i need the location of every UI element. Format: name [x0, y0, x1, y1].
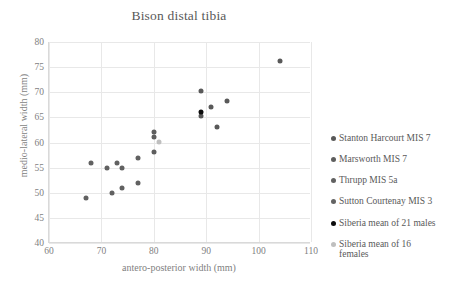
gridline-horizontal [49, 143, 310, 144]
y-tick-label: 70 [35, 87, 45, 97]
legend-marker-icon [331, 178, 336, 183]
x-tick-label: 90 [201, 246, 211, 256]
x-tick-label: 60 [44, 246, 54, 256]
data-point [109, 190, 114, 195]
legend-item[interactable]: Siberia mean of 16 females [331, 239, 449, 260]
legend-marker-icon [331, 157, 336, 162]
data-point [209, 104, 214, 109]
legend-label: Stanton Harcourt MIS 7 [339, 133, 431, 144]
data-point [120, 185, 125, 190]
gridline-vertical [154, 42, 155, 242]
gridline-vertical [259, 42, 260, 242]
gridline-horizontal [49, 243, 310, 244]
gridline-horizontal [49, 92, 310, 93]
gridline-horizontal [49, 117, 310, 118]
legend: Stanton Harcourt MIS 7Marsworth MIS 7Thr… [331, 133, 449, 270]
data-point [225, 99, 230, 104]
data-point [136, 155, 141, 160]
legend-marker-icon [331, 199, 336, 204]
data-point [83, 195, 88, 200]
gridline-horizontal [49, 218, 310, 219]
y-tick-label: 65 [35, 112, 45, 122]
legend-marker-icon [331, 221, 336, 226]
data-point [151, 150, 156, 155]
x-axis-label: antero-posterior width (mm) [48, 262, 310, 273]
legend-marker-icon [331, 242, 336, 247]
legend-item[interactable]: Thrupp MIS 5a [331, 175, 449, 186]
legend-label: Siberia mean of 16 females [339, 239, 411, 260]
legend-item[interactable]: Stanton Harcourt MIS 7 [331, 133, 449, 144]
gridline-vertical [49, 42, 50, 242]
legend-marker-icon [331, 136, 336, 141]
chart-title: Bison distal tibia [48, 8, 310, 24]
legend-item[interactable]: Marsworth MIS 7 [331, 154, 449, 165]
y-tick-label: 80 [35, 37, 45, 47]
y-tick-label: 55 [35, 163, 45, 173]
data-point [104, 165, 109, 170]
data-point [120, 165, 125, 170]
gridline-vertical [311, 42, 312, 242]
data-point [157, 139, 162, 144]
gridline-vertical [206, 42, 207, 242]
data-point [115, 160, 120, 165]
y-tick-label: 50 [35, 188, 45, 198]
gridline-vertical [101, 42, 102, 242]
data-point [136, 180, 141, 185]
data-point [88, 160, 93, 165]
legend-label: Sutton Courtenay MIS 3 [339, 196, 432, 207]
legend-label: Siberia mean of 21 males [339, 218, 436, 229]
data-point [214, 124, 219, 129]
y-axis-label: medio-lateral width (mm) [18, 56, 29, 196]
legend-label: Marsworth MIS 7 [339, 154, 407, 165]
gridline-horizontal [49, 42, 310, 43]
x-tick-label: 100 [251, 246, 265, 256]
gridline-horizontal [49, 67, 310, 68]
data-point [198, 110, 203, 115]
y-tick-label: 60 [35, 138, 45, 148]
x-tick-label: 80 [149, 246, 159, 256]
legend-item[interactable]: Sutton Courtenay MIS 3 [331, 196, 449, 207]
gridline-horizontal [49, 193, 310, 194]
scatter-chart: Bison distal tibia 404550556065707580 60… [0, 0, 450, 296]
y-tick-label: 40 [35, 238, 45, 248]
gridline-horizontal [49, 168, 310, 169]
legend-label: Thrupp MIS 5a [339, 175, 398, 186]
x-tick-label: 110 [304, 246, 318, 256]
data-point [151, 134, 156, 139]
data-point [277, 59, 282, 64]
x-tick-label: 70 [97, 246, 107, 256]
y-tick-label: 45 [35, 213, 45, 223]
y-tick-label: 75 [35, 62, 45, 72]
plot-area: 404550556065707580 60708090100110 [48, 42, 310, 243]
legend-item[interactable]: Siberia mean of 21 males [331, 218, 449, 229]
data-point [198, 89, 203, 94]
